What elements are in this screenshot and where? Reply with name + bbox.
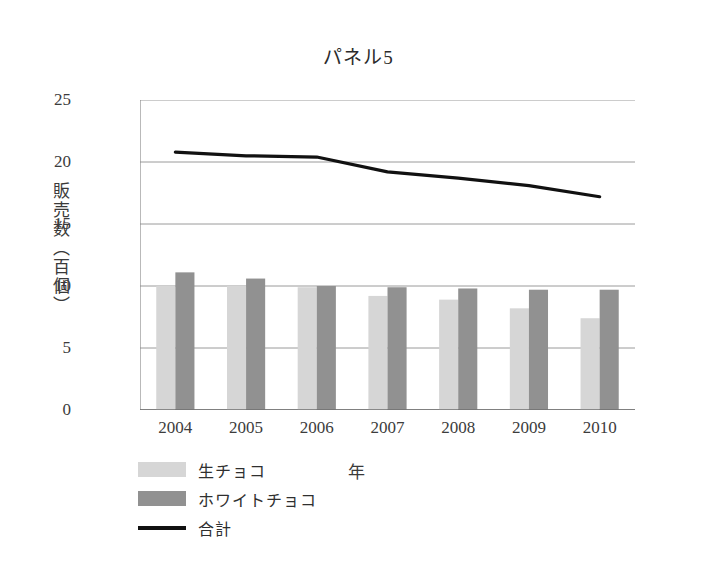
bar-生チョコ-2009 bbox=[510, 308, 529, 410]
legend-swatch-light bbox=[138, 462, 186, 477]
bar-生チョコ-2007 bbox=[368, 296, 387, 410]
y-tick-label: 5 bbox=[31, 338, 71, 358]
x-tick-label: 2004 bbox=[135, 418, 215, 438]
bar-ホワイトチョコ-2005 bbox=[246, 279, 265, 410]
bar-ホワイトチョコ-2008 bbox=[458, 288, 477, 410]
bar-生チョコ-2008 bbox=[439, 300, 458, 410]
page-title: パネル5 bbox=[0, 42, 717, 69]
bar-生チョコ-2006 bbox=[298, 287, 317, 410]
y-tick-label: 0 bbox=[31, 400, 71, 420]
bar-series-group bbox=[156, 272, 618, 410]
legend-label-white-choco: ホワイトチョコ bbox=[198, 487, 317, 511]
total-line bbox=[175, 152, 599, 197]
bar-ホワイトチョコ-2009 bbox=[529, 290, 548, 410]
x-tick-label: 2009 bbox=[489, 418, 569, 438]
legend-item-white-choco: ホワイトチョコ bbox=[138, 484, 317, 513]
legend-swatch-dark bbox=[138, 491, 186, 506]
line-series-group bbox=[175, 152, 599, 197]
plot-area bbox=[140, 100, 635, 410]
bar-生チョコ-2010 bbox=[581, 318, 600, 410]
x-tick-label: 2005 bbox=[206, 418, 286, 438]
y-tick-label: 25 bbox=[31, 90, 71, 110]
x-tick-label: 2008 bbox=[418, 418, 498, 438]
chart-page: パネル5 販売数（百個） 0510152025 2004200520062007… bbox=[0, 0, 717, 583]
bar-ホワイトチョコ-2007 bbox=[388, 287, 407, 410]
chart-svg bbox=[140, 100, 635, 410]
y-tick-label: 10 bbox=[31, 276, 71, 296]
legend-label-nama-choco: 生チョコ bbox=[198, 458, 266, 482]
x-tick-label: 2007 bbox=[348, 418, 428, 438]
x-axis-label: 年 bbox=[348, 458, 365, 483]
legend-label-total: 合計 bbox=[198, 516, 232, 540]
legend-line-total bbox=[138, 526, 186, 530]
bar-生チョコ-2004 bbox=[156, 286, 175, 410]
bar-ホワイトチョコ-2006 bbox=[317, 286, 336, 410]
x-tick-label: 2006 bbox=[277, 418, 357, 438]
legend-item-total: 合計 bbox=[138, 513, 317, 542]
x-tick-label: 2010 bbox=[560, 418, 640, 438]
legend: 生チョコ ホワイトチョコ 合計 bbox=[138, 455, 317, 542]
bar-ホワイトチョコ-2004 bbox=[175, 272, 194, 410]
legend-item-nama-choco: 生チョコ bbox=[138, 455, 317, 484]
bar-生チョコ-2005 bbox=[227, 286, 246, 410]
y-tick-label: 15 bbox=[31, 214, 71, 234]
y-tick-label: 20 bbox=[31, 152, 71, 172]
bar-ホワイトチョコ-2010 bbox=[600, 290, 619, 410]
